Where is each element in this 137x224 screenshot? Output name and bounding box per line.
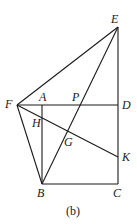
- label-E: E: [110, 12, 119, 26]
- label-A: A: [38, 90, 47, 104]
- label-H: H: [31, 116, 42, 130]
- figure-caption: (b): [66, 204, 80, 218]
- label-K: K: [121, 150, 131, 164]
- label-F: F: [4, 97, 13, 111]
- label-G: G: [64, 135, 73, 149]
- label-D: D: [121, 98, 131, 112]
- geometry-diagram: E F A P D H G K B C (b): [0, 0, 137, 224]
- label-P: P: [71, 90, 80, 104]
- label-B: B: [37, 186, 45, 200]
- label-C: C: [113, 186, 122, 200]
- segment-FE: [17, 27, 118, 105]
